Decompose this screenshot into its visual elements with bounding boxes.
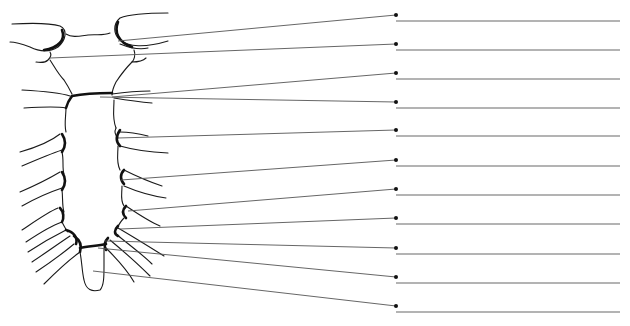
leader-line — [93, 271, 396, 306]
leader-line — [118, 15, 396, 41]
left-ribs — [20, 134, 81, 284]
leader-line — [128, 189, 396, 211]
label-5 — [118, 128, 620, 138]
leader-line — [121, 160, 396, 180]
leader-line — [112, 73, 396, 97]
label-dot-icon — [394, 100, 398, 104]
label-dot-icon — [394, 304, 398, 308]
label-dot-icon — [394, 71, 398, 75]
diagram-stage — [0, 0, 630, 326]
leader-line — [100, 97, 396, 102]
label-leaders — [50, 13, 620, 312]
leader-line — [98, 248, 396, 277]
label-1 — [118, 13, 620, 41]
anatomy-drawing — [0, 0, 630, 326]
label-dot-icon — [394, 275, 398, 279]
label-dot-icon — [394, 42, 398, 46]
label-dot-icon — [394, 187, 398, 191]
second-segment — [22, 90, 152, 132]
label-6 — [121, 158, 620, 180]
label-9 — [105, 241, 620, 254]
label-11 — [93, 271, 620, 312]
bottom-segment — [80, 244, 106, 291]
leader-line — [120, 218, 396, 229]
leader-line — [118, 130, 396, 138]
label-2 — [50, 42, 620, 58]
label-dot-icon — [394, 216, 398, 220]
label-8 — [120, 216, 620, 229]
label-10 — [98, 248, 620, 283]
label-dot-icon — [394, 128, 398, 132]
label-7 — [128, 187, 620, 211]
label-dot-icon — [394, 246, 398, 250]
label-dot-icon — [394, 13, 398, 17]
right-ribs — [105, 128, 168, 282]
leader-line — [50, 44, 396, 58]
label-dot-icon — [394, 158, 398, 162]
label-3 — [112, 71, 620, 97]
label-4 — [100, 97, 620, 108]
